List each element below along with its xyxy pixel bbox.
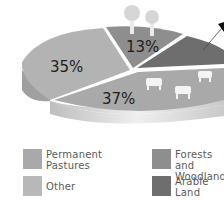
legend-label: Land [175, 187, 209, 198]
legend-label: Forests and [175, 149, 224, 171]
legend-swatch [152, 176, 171, 196]
legend-label: Pastures [46, 160, 102, 171]
legend-label: Other [46, 181, 75, 192]
legend-item-permanent-pastures: Permanent Pastures [23, 149, 102, 171]
legend-item-arable-land: Arable Land [152, 176, 209, 198]
legend-label: Permanent [46, 149, 102, 160]
forests-pct-label: 13% [126, 38, 159, 56]
legend-swatch [152, 149, 171, 169]
legend-item-other: Other [23, 176, 75, 196]
pie-chart: 35% 13% 37% [0, 0, 224, 135]
other-pct-label: 35% [50, 58, 83, 76]
arable-pointer-arrow [218, 22, 224, 32]
legend-label: Arable [175, 176, 209, 187]
legend-swatch [23, 149, 42, 169]
legend: Permanent Pastures Forests and Woodland … [0, 135, 224, 211]
legend-swatch [23, 176, 42, 196]
pastures-pct-label: 37% [102, 90, 135, 108]
